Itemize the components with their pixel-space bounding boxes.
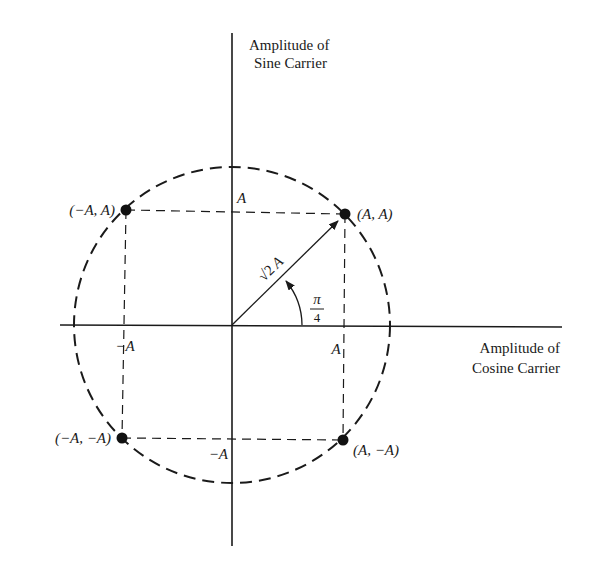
tick-label-y-neg: −A bbox=[209, 446, 229, 462]
horizontal-axis bbox=[60, 325, 562, 327]
point-label-nega-a: (−A, A) bbox=[69, 202, 115, 219]
qpsk-constellation-diagram: Amplitude of Sine Carrier Amplitude of C… bbox=[0, 0, 607, 576]
angle-arc-arrow bbox=[286, 281, 302, 325]
point-label-nega-nega: (−A, −A) bbox=[55, 430, 111, 447]
svg-text:√2A: √2A bbox=[255, 253, 287, 284]
y-axis-label-line1: Amplitude of bbox=[249, 37, 329, 53]
constellation-point-nega-nega bbox=[117, 433, 128, 444]
tick-label-x-neg: −A bbox=[115, 338, 135, 354]
tick-label-x-pos: A bbox=[330, 341, 341, 357]
point-label-a-a: (A, A) bbox=[357, 206, 393, 223]
constellation-point-a-a bbox=[340, 209, 351, 220]
x-axis-label-line1: Amplitude of bbox=[480, 340, 560, 356]
vector-magnitude-label: √2A bbox=[255, 253, 287, 284]
constellation-point-a-nega bbox=[338, 435, 349, 446]
point-label-a-nega: (A, −A) bbox=[353, 442, 399, 459]
angle-label-denominator: 4 bbox=[314, 310, 321, 325]
angle-label-numerator: π bbox=[313, 291, 321, 307]
x-axis-label-line2: Cosine Carrier bbox=[472, 360, 560, 376]
tick-label-y-pos: A bbox=[236, 190, 247, 206]
constellation-point-nega-a bbox=[121, 205, 132, 216]
y-axis-label-line2: Sine Carrier bbox=[254, 55, 327, 71]
